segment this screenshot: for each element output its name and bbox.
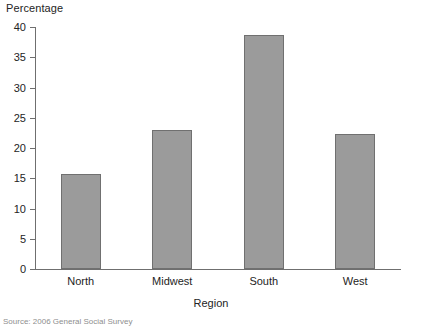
y-tick-mark: [30, 148, 35, 149]
x-tick-label: West: [343, 275, 368, 287]
y-tick-mark: [30, 88, 35, 89]
y-tick-mark: [30, 178, 35, 179]
bar-north: [61, 174, 101, 269]
y-tick-label: 40: [0, 21, 26, 33]
y-tick-label: 5: [0, 233, 26, 245]
bar-chart: Percentage 0510152025303540 NorthMidwest…: [0, 0, 422, 326]
y-tick-label: 10: [0, 203, 26, 215]
y-tick-mark: [30, 27, 35, 28]
y-tick-mark: [30, 269, 35, 270]
bar-midwest: [152, 130, 192, 269]
bar-south: [244, 35, 284, 269]
bar-west: [335, 134, 375, 269]
y-tick-mark: [30, 57, 35, 58]
source-note: Source: 2006 General Social Survey: [3, 317, 132, 326]
x-axis-line: [35, 269, 401, 270]
y-tick-label: 0: [0, 263, 26, 275]
x-tick-label: North: [67, 275, 94, 287]
x-tick-label: Midwest: [152, 275, 192, 287]
y-axis-line: [35, 27, 36, 270]
y-tick-mark: [30, 239, 35, 240]
x-axis-title: Region: [0, 297, 422, 309]
y-tick-mark: [30, 209, 35, 210]
y-axis-title: Percentage: [6, 2, 63, 14]
x-tick-label: South: [249, 275, 278, 287]
y-tick-label: 30: [0, 82, 26, 94]
y-tick-label: 25: [0, 112, 26, 124]
y-tick-label: 20: [0, 142, 26, 154]
y-tick-label: 35: [0, 51, 26, 63]
y-tick-label: 15: [0, 172, 26, 184]
y-tick-mark: [30, 118, 35, 119]
